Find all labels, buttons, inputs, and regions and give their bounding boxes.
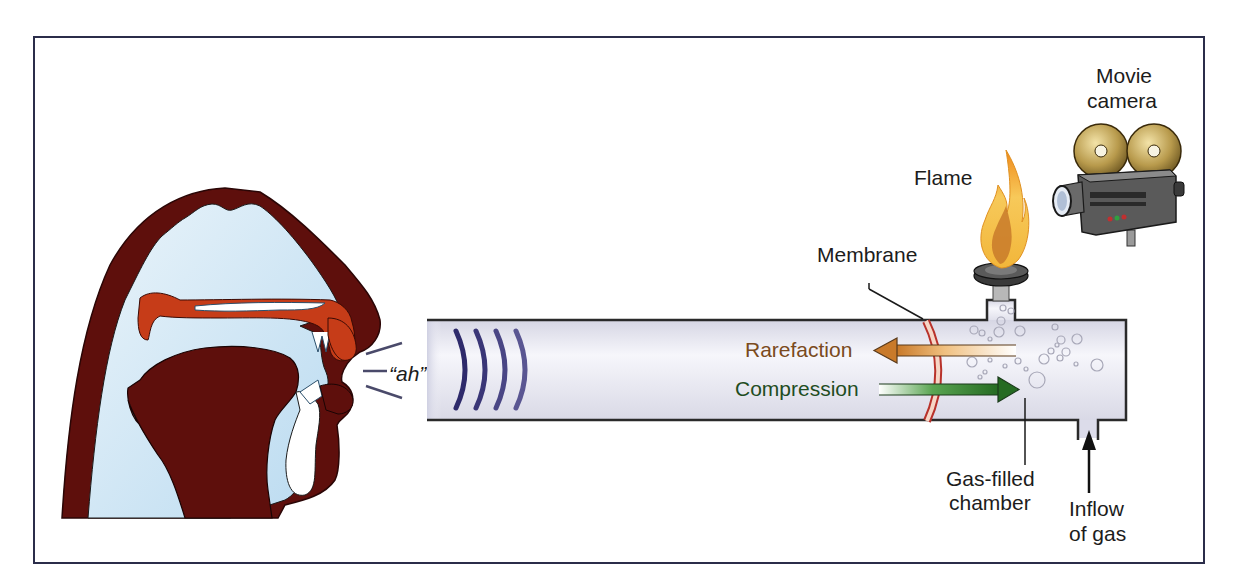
movie-camera-icon — [1053, 124, 1184, 246]
membrane-label: Membrane — [817, 243, 917, 266]
flame-icon — [981, 150, 1029, 268]
sound-tube-diagram: “ah” Membrane — [0, 0, 1243, 586]
flame-burner — [974, 263, 1028, 301]
camera-label-line2: camera — [1087, 89, 1157, 112]
flame-label: Flame — [914, 166, 972, 189]
camera-label-line1: Movie — [1096, 64, 1152, 87]
inflow-label-line2: of gas — [1069, 522, 1126, 545]
tube — [427, 300, 1126, 440]
chamber-label-line2: chamber — [949, 491, 1031, 514]
inflow-label-line1: Inflow — [1069, 497, 1125, 520]
compression-label: Compression — [735, 377, 859, 400]
rarefaction-label: Rarefaction — [745, 338, 852, 361]
arrow-up-icon — [1082, 430, 1096, 493]
sound-label: “ah” — [389, 362, 427, 385]
head-cross-section — [62, 188, 380, 518]
chamber-label-line1: Gas-filled — [946, 467, 1035, 490]
